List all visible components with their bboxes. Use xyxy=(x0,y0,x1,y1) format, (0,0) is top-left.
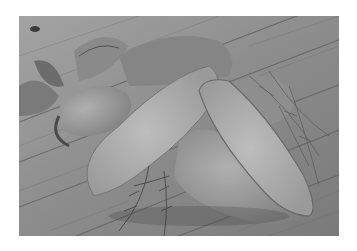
sweet-potato-photo xyxy=(19,16,339,236)
shadow xyxy=(109,206,289,226)
photo-illustration xyxy=(19,16,339,236)
